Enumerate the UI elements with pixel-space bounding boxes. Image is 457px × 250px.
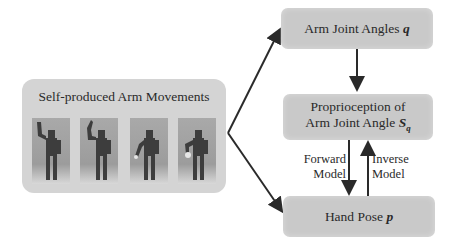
node-proprioception: Proprioception of Arm Joint Angle Sq [283, 94, 433, 140]
inverse-line2: Model [372, 167, 422, 182]
robot-image-2 [80, 118, 118, 184]
symbol-p: p [386, 209, 393, 224]
forward-line1: Forward [296, 152, 346, 167]
label-inverse-model: Inverse Model [372, 152, 422, 182]
arrow-to-hand-pose [228, 133, 281, 210]
node-label-line1: Proprioception of [305, 99, 410, 115]
inverse-line1: Inverse [372, 152, 422, 167]
symbol-subscript-q: q [406, 122, 411, 132]
self-produced-movements-panel: Self-produced Arm Movements [22, 79, 226, 193]
label-forward-model: Forward Model [296, 152, 346, 182]
panel-title: Self-produced Arm Movements [22, 89, 226, 105]
robot-image-4 [178, 118, 216, 184]
arrow-to-arm-joint-angles [228, 31, 279, 133]
symbol-q: q [403, 21, 410, 36]
node-label: Hand Pose [325, 209, 387, 224]
robot-image-3 [130, 118, 168, 184]
robot-image-1 [32, 118, 70, 184]
forward-line2: Model [296, 167, 346, 182]
node-label-line2: Arm Joint Angle [305, 115, 398, 130]
node-label: Arm Joint Angles [304, 21, 403, 36]
node-arm-joint-angles: Arm Joint Angles q [281, 8, 433, 49]
node-hand-pose: Hand Pose p [283, 196, 435, 237]
